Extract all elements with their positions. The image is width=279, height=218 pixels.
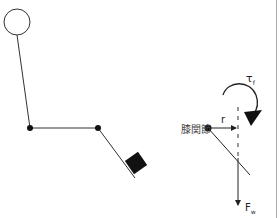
diagram-canvas	[0, 0, 279, 218]
free-body-diagram	[205, 84, 263, 205]
torque-subscript: f	[253, 79, 255, 86]
torque-label: τf	[246, 72, 255, 86]
knee-joint-label: 膝関節	[181, 121, 211, 136]
torque-arc	[223, 84, 257, 115]
hip-joint-dot	[27, 125, 33, 131]
torque-arrowhead	[244, 110, 262, 126]
stick-figure	[4, 9, 147, 178]
foot-weight-block	[125, 152, 147, 174]
force-subscript: w	[251, 208, 256, 215]
force-label: Fw	[245, 202, 256, 215]
head-circle	[4, 9, 30, 35]
shank-line	[98, 128, 135, 178]
trunk-line	[17, 35, 30, 128]
knee-joint-dot	[95, 125, 101, 131]
shank-segment	[208, 128, 250, 175]
torque-symbol: τ	[246, 72, 253, 85]
lever-arm-label: r	[221, 114, 225, 125]
